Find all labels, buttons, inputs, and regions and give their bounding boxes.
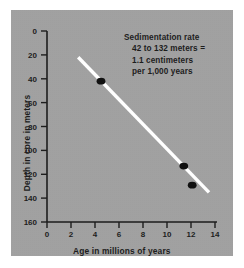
y-tick-label-40: 40 xyxy=(15,74,37,83)
chart-figure: 0 20 40 60 80 100 120 140 160 0 2 4 6 8 … xyxy=(0,0,244,268)
x-axis-ticks xyxy=(47,222,215,228)
x-tick-label-14: 14 xyxy=(211,230,220,239)
x-tick-label-0: 0 xyxy=(45,230,49,239)
y-tick-label-0: 0 xyxy=(15,27,37,36)
x-tick-label-8: 8 xyxy=(141,230,145,239)
x-axis-title: Age in millions of years xyxy=(73,246,171,256)
x-tick-label-6: 6 xyxy=(117,230,121,239)
data-point-3 xyxy=(188,182,197,189)
note-line-3: 1.1 centimeters xyxy=(124,55,205,66)
sedimentation-rate-note: Sedimentation rate 42 to 132 meters = 1.… xyxy=(124,32,205,78)
y-axis-ticks xyxy=(41,31,47,222)
note-line-1: Sedimentation rate xyxy=(124,32,205,43)
y-axis-title: Depth in core in meters xyxy=(22,83,32,203)
x-tick-label-4: 4 xyxy=(93,230,97,239)
y-tick-label-160: 160 xyxy=(15,218,37,227)
data-points xyxy=(97,78,197,189)
x-tick-label-2: 2 xyxy=(69,230,73,239)
data-point-2 xyxy=(179,163,188,170)
data-point-1 xyxy=(97,78,106,85)
y-tick-label-20: 20 xyxy=(15,50,37,59)
x-tick-label-12: 12 xyxy=(187,230,196,239)
chart-plot-panel: 0 20 40 60 80 100 120 140 160 0 2 4 6 8 … xyxy=(11,10,233,256)
x-tick-label-10: 10 xyxy=(163,230,172,239)
note-line-4: per 1,000 years xyxy=(124,66,205,77)
note-line-2: 42 to 132 meters = xyxy=(124,43,205,54)
